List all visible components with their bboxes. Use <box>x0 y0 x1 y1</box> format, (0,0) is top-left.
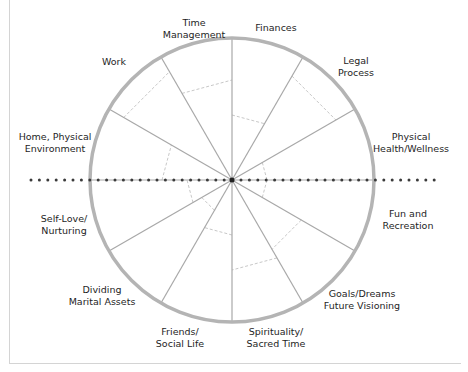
axis-dot <box>349 179 352 182</box>
axis-dot <box>307 179 310 182</box>
label-self-love: Self-Love/Nurturing <box>41 213 87 237</box>
label-legal-process: LegalProcess <box>338 55 374 79</box>
label-dividing-assets: DividingMarital Assets <box>69 284 136 308</box>
axis-dot <box>130 179 133 182</box>
rating-arc <box>162 145 171 180</box>
axis-dot <box>30 179 33 182</box>
axis-dot <box>433 179 436 182</box>
label-fun-recreation: Fun andRecreation <box>383 208 434 232</box>
axis-dot <box>256 179 259 182</box>
axis-dot <box>46 179 49 182</box>
rating-arc <box>262 180 267 198</box>
axis-dot <box>391 179 394 182</box>
rating-arc <box>187 180 193 203</box>
rating-arc <box>205 228 233 235</box>
label-home-environment: Home, PhysicalEnvironment <box>19 131 92 155</box>
label-friends-social: Friends/Social Life <box>156 326 204 350</box>
spoke <box>232 180 355 251</box>
axis-dot <box>282 179 285 182</box>
label-time-management: TimeManagement <box>163 17 226 41</box>
label-work: Work <box>102 56 126 68</box>
rating-arc <box>182 80 232 93</box>
rating-arc <box>272 220 301 249</box>
axis-dot <box>298 179 301 182</box>
rating-arcs <box>124 72 336 270</box>
axis-dot <box>72 179 75 182</box>
spoke <box>232 109 355 180</box>
rating-arc <box>292 76 336 120</box>
axis-dot <box>172 179 175 182</box>
axis-dot <box>366 179 369 182</box>
axis-dot <box>63 179 66 182</box>
axis-dot <box>55 179 58 182</box>
label-spirituality: Spirituality/Sacred Time <box>247 326 306 350</box>
axis-dot <box>97 179 100 182</box>
spoke <box>109 109 232 180</box>
axis-dot <box>408 179 411 182</box>
axis-dot <box>240 179 243 182</box>
axis-dot <box>340 179 343 182</box>
axis-dot <box>357 179 360 182</box>
axis-dot <box>248 179 251 182</box>
axis-dot <box>273 179 276 182</box>
axis-dot <box>114 179 117 182</box>
label-finances: Finances <box>255 22 296 34</box>
rating-arc <box>232 115 265 124</box>
axis-dot <box>189 179 192 182</box>
axis-dot <box>105 179 108 182</box>
axis-dot <box>382 179 385 182</box>
label-physical-health: PhysicalHealth/Wellness <box>373 131 449 155</box>
axis-dot <box>139 179 142 182</box>
axis-dot <box>214 179 217 182</box>
axis-dot <box>332 179 335 182</box>
axis-dot <box>290 179 293 182</box>
spoke <box>161 180 232 303</box>
axis-dot <box>122 179 125 182</box>
axis-dot <box>164 179 167 182</box>
axis-dot <box>147 179 150 182</box>
label-goals-dreams: Goals/DreamsFuture Visioning <box>324 288 400 312</box>
rating-arc <box>232 258 277 270</box>
spoke <box>109 180 232 251</box>
wheel-hub <box>230 178 235 183</box>
spoke <box>232 180 303 303</box>
axis-dot <box>324 179 327 182</box>
axis-dot <box>374 179 377 182</box>
rating-arc <box>202 198 215 211</box>
axis-dot <box>80 179 83 182</box>
axis-dot <box>88 179 91 182</box>
axis-dot <box>315 179 318 182</box>
axis-dot <box>416 179 419 182</box>
axis-dot <box>206 179 209 182</box>
axis-dot <box>223 179 226 182</box>
spoke <box>161 57 232 180</box>
axis-dot <box>399 179 402 182</box>
axis-dot <box>38 179 41 182</box>
axis-dot <box>198 179 201 182</box>
spoke <box>232 57 303 180</box>
life-wheel-diagram <box>0 0 468 372</box>
axis-dot <box>424 179 427 182</box>
axis-dot <box>181 179 184 182</box>
axis-dot <box>265 179 268 182</box>
axis-dot <box>156 179 159 182</box>
rating-arc <box>262 163 267 181</box>
